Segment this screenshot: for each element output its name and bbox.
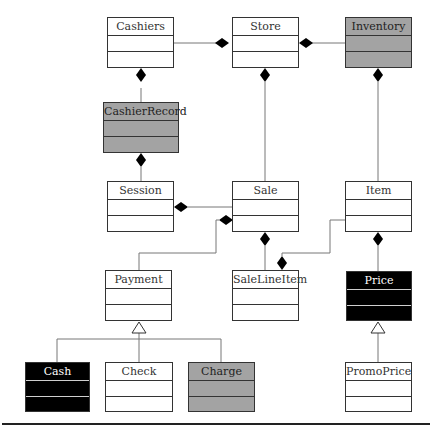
composition-diamond-icon [174,202,188,212]
composition-diamond-icon [260,68,270,82]
class-attributes [26,381,89,397]
class-name: CashierRecord [104,103,178,121]
generalization-triangle-icon [371,322,385,333]
class-operations [346,397,411,412]
class-name: Store [233,18,298,36]
class-attributes [233,36,298,52]
class-attributes [108,200,173,216]
class-name: Payment [106,271,171,289]
class-attributes [189,381,254,397]
class-salelineitem[interactable]: SaleLineItem [232,270,299,321]
class-operations [108,216,173,231]
class-operations [346,52,411,67]
class-attributes [233,200,298,216]
class-promoprice[interactable]: PromoPrice [345,362,412,412]
composition-diamond-icon [136,153,146,167]
class-name: Inventory [346,18,411,36]
class-operations [233,52,298,67]
class-price[interactable]: Price [346,271,412,321]
class-attributes [346,381,411,397]
class-store[interactable]: Store [232,17,299,68]
class-attributes [346,36,411,52]
class-name: Cashiers [108,18,173,36]
class-name: Session [108,182,173,200]
composition-diamond-icon [373,232,383,246]
class-item[interactable]: Item [345,181,412,232]
class-attributes [347,290,411,306]
class-operations [233,305,298,320]
class-operations [106,305,171,320]
class-attributes [108,36,173,52]
class-cashiers[interactable]: Cashiers [107,17,174,68]
class-name: Charge [189,363,254,381]
class-name: Item [346,182,411,200]
class-check[interactable]: Check [105,362,173,412]
class-session[interactable]: Session [107,181,174,232]
class-attributes [106,289,171,305]
class-attributes [233,289,298,305]
class-name: Price [347,272,411,290]
class-operations [347,306,411,321]
generalization-triangle-icon [132,322,146,333]
class-operations [26,397,89,412]
class-sale[interactable]: Sale [232,181,299,232]
class-inventory[interactable]: Inventory [345,17,412,68]
composition-diamond-icon [299,38,313,48]
class-operations [346,216,411,231]
composition-diamond-icon [260,232,270,246]
class-name: SaleLineItem [233,271,298,289]
class-attributes [106,381,172,397]
bottom-divider [2,423,430,425]
class-attributes [346,200,411,216]
composition-diamond-icon [277,256,287,270]
composition-diamond-icon [373,68,383,82]
class-cashierrecord[interactable]: CashierRecord [103,102,179,153]
class-payment[interactable]: Payment [105,270,172,321]
composition-diamond-icon [136,68,146,82]
composition-diamond-icon [215,38,229,48]
class-name: Check [106,363,172,381]
class-charge[interactable]: Charge [188,362,255,412]
class-operations [106,397,172,412]
class-name: Sale [233,182,298,200]
class-cash[interactable]: Cash [25,362,90,412]
class-operations [108,52,173,67]
class-operations [104,137,178,152]
class-operations [189,397,254,412]
class-attributes [104,121,178,137]
class-operations [233,216,298,231]
uml-class-diagram: Cashiers Store Inventory CashierRecord S… [0,0,431,434]
class-name: Cash [26,363,89,381]
composition-diamond-icon [219,215,233,225]
class-name: PromoPrice [346,363,411,381]
